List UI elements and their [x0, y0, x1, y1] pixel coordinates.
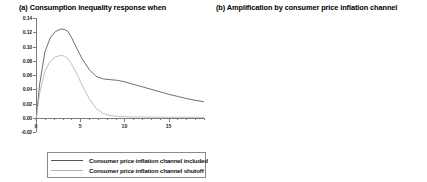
x-tick-major	[36, 118, 37, 122]
y-tick-label: 0.06	[23, 72, 32, 78]
x-tick-minor	[177, 118, 178, 120]
x-tick-major	[80, 118, 81, 122]
x-tick-label: 0	[35, 123, 38, 129]
x-tick-label: 5	[79, 123, 82, 129]
x-tick-minor	[116, 118, 117, 120]
figure-root: (a) Consumption inequality response when…	[0, 0, 427, 182]
y-tick	[33, 32, 36, 33]
chart-panel-b: (b) Amplification by consumer price infl…	[213, 0, 427, 150]
x-tick-minor	[160, 118, 161, 120]
x-tick-major	[124, 118, 125, 122]
x-tick-label: 10	[122, 123, 128, 129]
y-tick-label: 0.02	[23, 101, 32, 107]
x-tick-minor	[98, 118, 99, 120]
line-series	[36, 55, 204, 120]
x-tick-major	[169, 118, 170, 122]
x-tick-minor	[63, 118, 64, 120]
legend-item-shutoff: Consumer price inflation channel shutoff	[51, 165, 202, 176]
y-tick-label: 0.04	[23, 86, 32, 92]
x-tick-minor	[89, 118, 90, 120]
y-tick-label: 0.14	[23, 15, 32, 21]
legend-line-icon-included	[51, 160, 83, 161]
x-tick-minor	[204, 118, 205, 120]
y-tick-label: 0.10	[23, 44, 32, 50]
panel-a-series-svg	[36, 18, 204, 132]
panel-b-title: (b) Amplification by consumer price infl…	[216, 3, 397, 12]
x-tick-minor	[142, 118, 143, 120]
y-tick-label: 0.12	[23, 29, 32, 35]
y-tick	[33, 89, 36, 90]
x-tick-label: 15	[166, 123, 172, 129]
x-tick-minor	[195, 118, 196, 120]
x-tick-minor	[133, 118, 134, 120]
y-tick	[33, 104, 36, 105]
x-tick-minor	[151, 118, 152, 120]
x-tick-minor	[107, 118, 108, 120]
y-tick	[33, 47, 36, 48]
y-tick-label: 0.00	[23, 115, 32, 121]
y-tick	[33, 18, 36, 19]
legend-line-icon-shutoff	[51, 170, 83, 171]
legend-label-included: Consumer price inflation channel include…	[89, 157, 208, 164]
y-tick-label: 0.08	[23, 58, 32, 64]
x-tick-minor	[71, 118, 72, 120]
legend-label-shutoff: Consumer price inflation channel shutoff	[89, 167, 204, 174]
legend: Consumer price inflation channel include…	[47, 152, 206, 178]
line-series	[36, 29, 204, 121]
y-tick	[33, 61, 36, 62]
x-tick-minor	[45, 118, 46, 120]
x-tick-minor	[186, 118, 187, 120]
panel-a-plot-area: -0.020.000.020.040.060.080.100.120.14051…	[36, 18, 204, 132]
y-tick	[33, 132, 36, 133]
y-tick-label: -0.02	[21, 129, 32, 135]
x-tick-minor	[54, 118, 55, 120]
panel-a-title: (a) Consumption inequality response when	[19, 3, 166, 12]
chart-panel-a: (a) Consumption inequality response when…	[0, 0, 213, 150]
y-tick	[33, 75, 36, 76]
